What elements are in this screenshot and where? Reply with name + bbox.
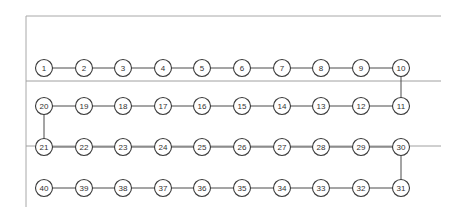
node-label: 16 bbox=[198, 102, 207, 111]
node-label: 40 bbox=[40, 184, 49, 193]
node-25: 25 bbox=[194, 139, 211, 156]
node-label: 10 bbox=[397, 64, 406, 73]
node-15: 15 bbox=[234, 98, 251, 115]
node-7: 7 bbox=[274, 60, 291, 77]
node-label: 4 bbox=[161, 64, 166, 73]
node-label: 39 bbox=[80, 184, 89, 193]
node-label: 13 bbox=[317, 102, 326, 111]
node-label: 7 bbox=[280, 64, 285, 73]
node-label: 33 bbox=[317, 184, 326, 193]
node-35: 35 bbox=[234, 180, 251, 197]
node-label: 11 bbox=[397, 102, 406, 111]
node-label: 32 bbox=[357, 184, 366, 193]
nodes: 1234567891020191817161514131211212223242… bbox=[36, 60, 410, 197]
node-label: 2 bbox=[82, 64, 87, 73]
node-20: 20 bbox=[36, 98, 53, 115]
node-6: 6 bbox=[234, 60, 251, 77]
node-34: 34 bbox=[274, 180, 291, 197]
node-23: 23 bbox=[115, 139, 132, 156]
node-26: 26 bbox=[234, 139, 251, 156]
node-28: 28 bbox=[313, 139, 330, 156]
node-label: 38 bbox=[119, 184, 128, 193]
node-1: 1 bbox=[36, 60, 53, 77]
connectors bbox=[44, 68, 401, 188]
node-label: 36 bbox=[198, 184, 207, 193]
node-2: 2 bbox=[76, 60, 93, 77]
node-31: 31 bbox=[393, 180, 410, 197]
node-12: 12 bbox=[353, 98, 370, 115]
node-label: 28 bbox=[317, 143, 326, 152]
node-29: 29 bbox=[353, 139, 370, 156]
node-label: 35 bbox=[238, 184, 247, 193]
node-13: 13 bbox=[313, 98, 330, 115]
node-11: 11 bbox=[393, 98, 410, 115]
node-label: 6 bbox=[240, 64, 245, 73]
node-38: 38 bbox=[115, 180, 132, 197]
node-22: 22 bbox=[76, 139, 93, 156]
node-40: 40 bbox=[36, 180, 53, 197]
node-label: 25 bbox=[198, 143, 207, 152]
node-5: 5 bbox=[194, 60, 211, 77]
node-30: 30 bbox=[393, 139, 410, 156]
node-19: 19 bbox=[76, 98, 93, 115]
node-8: 8 bbox=[313, 60, 330, 77]
node-label: 20 bbox=[40, 102, 49, 111]
node-24: 24 bbox=[155, 139, 172, 156]
node-18: 18 bbox=[115, 98, 132, 115]
node-label: 22 bbox=[80, 143, 89, 152]
node-21: 21 bbox=[36, 139, 53, 156]
node-label: 26 bbox=[238, 143, 247, 152]
node-label: 24 bbox=[159, 143, 168, 152]
node-label: 29 bbox=[357, 143, 366, 152]
node-label: 31 bbox=[397, 184, 406, 193]
node-label: 9 bbox=[359, 64, 364, 73]
node-label: 18 bbox=[119, 102, 128, 111]
node-label: 17 bbox=[159, 102, 168, 111]
node-label: 3 bbox=[121, 64, 126, 73]
node-39: 39 bbox=[76, 180, 93, 197]
node-label: 19 bbox=[80, 102, 89, 111]
node-label: 14 bbox=[278, 102, 287, 111]
node-37: 37 bbox=[155, 180, 172, 197]
node-label: 12 bbox=[357, 102, 366, 111]
node-label: 37 bbox=[159, 184, 168, 193]
node-27: 27 bbox=[274, 139, 291, 156]
node-9: 9 bbox=[353, 60, 370, 77]
node-14: 14 bbox=[274, 98, 291, 115]
node-4: 4 bbox=[155, 60, 172, 77]
node-label: 1 bbox=[42, 64, 47, 73]
node-3: 3 bbox=[115, 60, 132, 77]
node-36: 36 bbox=[194, 180, 211, 197]
node-label: 15 bbox=[238, 102, 247, 111]
node-label: 34 bbox=[278, 184, 287, 193]
node-33: 33 bbox=[313, 180, 330, 197]
node-label: 27 bbox=[278, 143, 287, 152]
node-10: 10 bbox=[393, 60, 410, 77]
node-32: 32 bbox=[353, 180, 370, 197]
node-label: 21 bbox=[40, 143, 49, 152]
node-label: 8 bbox=[319, 64, 324, 73]
node-label: 30 bbox=[397, 143, 406, 152]
node-17: 17 bbox=[155, 98, 172, 115]
node-16: 16 bbox=[194, 98, 211, 115]
node-label: 23 bbox=[119, 143, 128, 152]
node-chain-diagram: 1234567891020191817161514131211212223242… bbox=[0, 0, 464, 207]
node-label: 5 bbox=[200, 64, 205, 73]
